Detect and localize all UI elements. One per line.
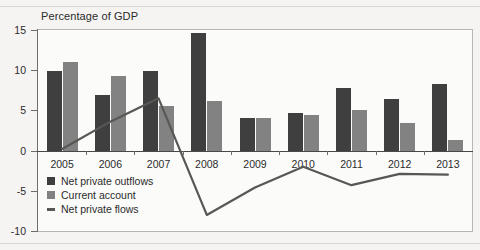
x-tick-label: 2012 (388, 158, 411, 170)
bar-net-private-outflows (240, 118, 255, 150)
y-tick-mark (31, 70, 37, 71)
x-tick-mark (327, 151, 328, 155)
legend-item: Current account (47, 188, 153, 202)
bar-current-account (63, 62, 78, 150)
x-tick-label: 2007 (147, 158, 170, 170)
bar-current-account (448, 140, 463, 150)
bar-net-private-outflows (336, 88, 351, 151)
y-tick-label: 0 (0, 145, 26, 157)
bar-current-account (400, 123, 415, 150)
x-tick-label: 2010 (292, 158, 315, 170)
legend-item: Net private flows (47, 202, 153, 216)
legend-item: Net private outflows (47, 174, 153, 188)
legend-square-swatch-icon (47, 177, 55, 185)
bar-current-account (304, 115, 319, 150)
y-tick-label: 15 (0, 24, 26, 36)
bar-net-private-outflows (288, 113, 303, 151)
bar-net-private-outflows (432, 84, 447, 151)
x-tick-label: 2008 (195, 158, 218, 170)
x-tick-label: 2006 (99, 158, 122, 170)
bar-current-account (111, 76, 126, 151)
x-tick-mark (424, 151, 425, 155)
x-tick-mark (279, 151, 280, 155)
legend-label: Net private flows (61, 203, 139, 215)
bar-net-private-outflows (47, 71, 62, 151)
x-tick-mark (183, 151, 184, 155)
bar-net-private-outflows (191, 33, 206, 150)
x-tick-mark (231, 151, 232, 155)
bar-net-private-outflows (95, 95, 110, 150)
x-tick-label: 2009 (243, 158, 266, 170)
x-tick-label: 2011 (340, 158, 363, 170)
x-tick-mark (376, 151, 377, 155)
bar-net-private-outflows (384, 99, 399, 150)
x-tick-label: 2005 (50, 158, 73, 170)
y-tick-label: -10 (0, 225, 26, 237)
bar-current-account (352, 110, 367, 150)
y-tick-label: 10 (0, 64, 26, 76)
legend-line-swatch-icon (47, 208, 55, 211)
bar-current-account (256, 118, 271, 151)
chart-legend: Net private outflowsCurrent accountNet p… (47, 174, 153, 216)
x-tick-mark (134, 151, 135, 155)
x-tick-mark (86, 151, 87, 155)
y-tick-mark (31, 110, 37, 111)
x-tick-label: 2013 (436, 158, 459, 170)
bar-net-private-outflows (143, 71, 158, 151)
legend-label: Current account (61, 189, 136, 201)
bottom-divider (0, 243, 480, 244)
y-tick-mark (31, 30, 37, 31)
y-tick-mark (31, 231, 37, 232)
chart-title: Percentage of GDP (41, 10, 138, 22)
y-tick-label: -5 (0, 185, 26, 197)
bar-current-account (159, 106, 174, 150)
y-tick-mark (31, 191, 37, 192)
legend-square-swatch-icon (47, 191, 55, 199)
top-divider (0, 6, 480, 7)
chart-figure: Percentage of GDP 151050-5-10 2005200620… (0, 0, 480, 250)
y-tick-label: 5 (0, 104, 26, 116)
bar-current-account (207, 101, 222, 151)
legend-label: Net private outflows (61, 175, 153, 187)
